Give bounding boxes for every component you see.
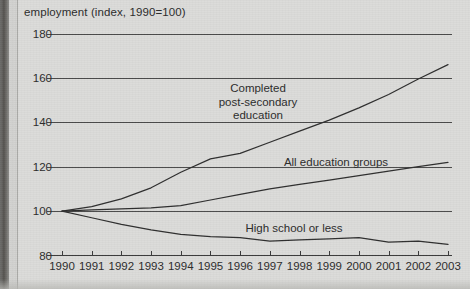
x-axis-tick-label: 2003: [431, 260, 465, 272]
y-axis-tick-label: 120: [18, 161, 52, 173]
series-label-post-secondary: Completed post-secondary education: [219, 82, 298, 123]
y-axis-tick-label: 100: [18, 205, 52, 217]
line-chart-plot: [0, 0, 470, 289]
y-axis-tick-label: 180: [18, 28, 52, 40]
series-label-all-education-groups: All education groups: [284, 156, 388, 170]
y-axis-tick-label: 160: [18, 72, 52, 84]
series-label-high-school-or-less: High school or less: [245, 222, 342, 236]
gridlines: [47, 34, 452, 212]
series-line: [62, 162, 448, 211]
y-axis-tick-label: 140: [18, 116, 52, 128]
chart-page: employment (index, 1990=100) 80100120140…: [0, 0, 470, 289]
